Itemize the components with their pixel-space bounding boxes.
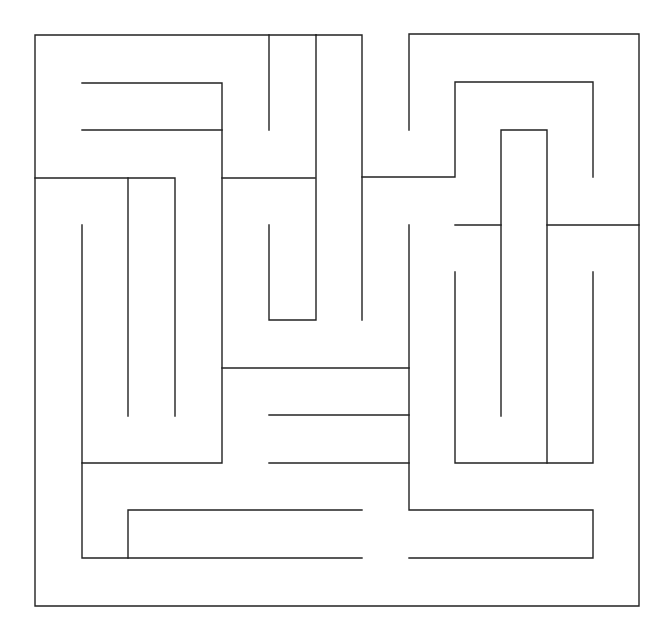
maze-wall	[455, 272, 593, 463]
maze-wall	[316, 35, 362, 320]
maze-wall	[362, 82, 593, 177]
maze-drawing	[0, 0, 671, 638]
maze-wall	[128, 510, 362, 558]
maze-wall	[82, 83, 222, 463]
maze-wall	[35, 35, 639, 606]
maze-wall	[35, 178, 175, 416]
maze-wall	[501, 130, 547, 463]
